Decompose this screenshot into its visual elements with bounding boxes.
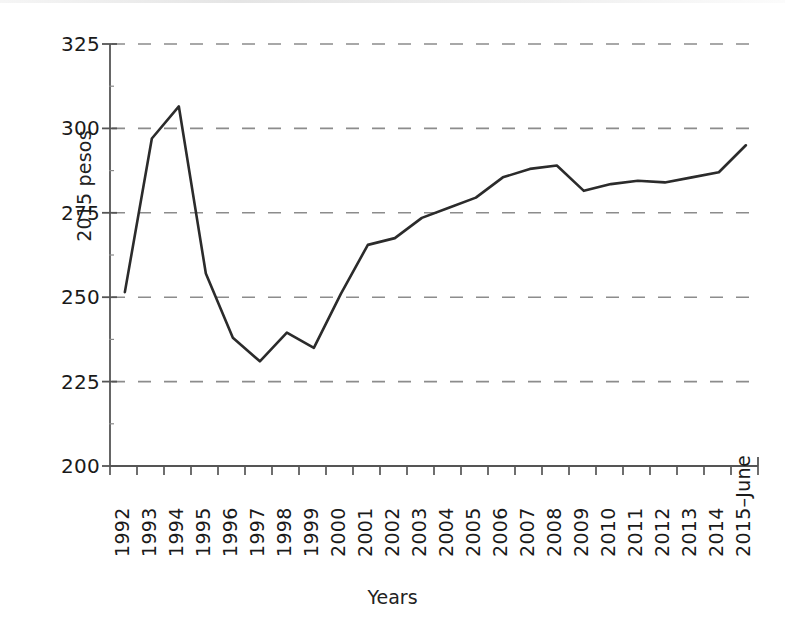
x-tick-label: 2010 <box>597 507 619 557</box>
x-tick-label: 2011 <box>624 507 646 557</box>
x-tick-label: 1993 <box>138 507 160 557</box>
x-tick-label: 2001 <box>354 507 376 557</box>
x-tick-label: 1995 <box>192 507 214 557</box>
x-tick-label: 2008 <box>543 507 565 557</box>
x-tick-label: 2004 <box>435 507 457 557</box>
x-tick-label: 2003 <box>408 507 430 557</box>
x-tick-label: 2006 <box>489 507 511 557</box>
x-axis-title: Years <box>0 586 785 608</box>
x-tick-label: 2015–June <box>732 455 754 557</box>
chart-figure: 2015 pesos 200225250275300325 1992199319… <box>0 0 785 627</box>
x-axis-tick-labels: 1992199319941995199619971998199920002001… <box>0 0 785 627</box>
x-tick-label: 2009 <box>570 507 592 557</box>
x-tick-label: 2007 <box>516 507 538 557</box>
x-tick-label: 1996 <box>219 507 241 557</box>
x-tick-label: 1997 <box>246 507 268 557</box>
x-tick-label: 2002 <box>381 507 403 557</box>
x-tick-label: 1992 <box>111 507 133 557</box>
x-tick-label: 1999 <box>300 507 322 557</box>
x-tick-label: 1998 <box>273 507 295 557</box>
x-tick-label: 2012 <box>651 507 673 557</box>
x-tick-label: 1994 <box>165 507 187 557</box>
x-tick-label: 2000 <box>327 507 349 557</box>
x-tick-label: 2013 <box>678 507 700 557</box>
x-tick-label: 2014 <box>705 507 727 557</box>
x-tick-label: 2005 <box>462 507 484 557</box>
